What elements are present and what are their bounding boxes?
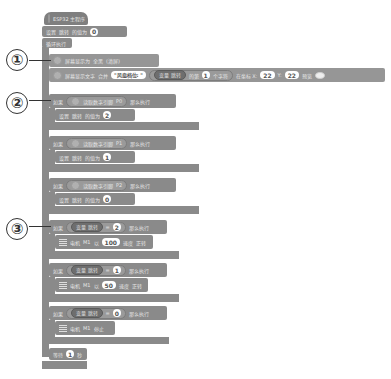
port-dropdown[interactable]: M1	[83, 325, 91, 331]
init-set-block[interactable]: 设置 跳转 的值为 0	[42, 26, 127, 37]
callout-number: ①	[6, 49, 28, 71]
speed-input[interactable]: 100	[102, 238, 121, 246]
then-label: 那么执行	[130, 182, 150, 189]
callout-number: ③	[6, 218, 28, 240]
compare-block[interactable]: 变量 跳转 = 1	[66, 265, 126, 276]
wait-unit: 秒	[77, 351, 82, 358]
if-block[interactable]: 如果 读取数字引脚 P0 那么执行	[49, 94, 176, 108]
nth-label: 的第	[189, 72, 199, 79]
set-block[interactable]: 设置 跳转 的值为 2	[55, 109, 135, 121]
variable-reporter[interactable]: 变量 跳转	[71, 265, 103, 275]
if-foot	[49, 164, 199, 172]
prefix-label: 以	[94, 239, 99, 246]
to-label: 的值为	[85, 112, 100, 119]
coord-y-label: Y:	[278, 72, 282, 78]
speed-label: 速度	[119, 282, 129, 289]
motor-icon	[59, 282, 67, 289]
char-of-block[interactable]: 变量 跳转 的第 1 个字符	[149, 70, 233, 81]
screen-text-label: 屏幕显示文字	[65, 72, 95, 79]
preview-label: 预览	[302, 72, 312, 79]
screen-clear-block[interactable]: 屏幕显示为 全黑 (清屏)	[49, 54, 159, 67]
callout-line	[29, 226, 51, 227]
var-dropdown[interactable]: 跳转	[72, 196, 82, 203]
set-label: 设置	[59, 196, 69, 203]
merge-label: 合并	[98, 72, 108, 79]
hat-block[interactable]: ESP32 主程序	[44, 12, 88, 25]
wait-input[interactable]: 1	[66, 350, 74, 358]
equals-label: =	[106, 310, 110, 316]
then-label: 那么执行	[129, 310, 149, 317]
callout-number: ②	[6, 92, 28, 114]
if-label: 如果	[53, 98, 63, 105]
port-dropdown[interactable]: M1	[83, 239, 91, 245]
set-block[interactable]: 设置 跳转 的值为 1	[55, 151, 135, 163]
value-input[interactable]: 0	[90, 28, 98, 36]
speed-input[interactable]: 50	[102, 281, 116, 289]
read-label: 读取数字引脚	[83, 182, 113, 189]
if-block[interactable]: 如果 变量 跳转 = 2 那么执行	[49, 220, 167, 234]
if-block[interactable]: 如果 读取数字引脚 P2 那么执行	[49, 178, 176, 192]
var-dropdown[interactable]: 跳转	[59, 28, 69, 35]
var-dropdown[interactable]: 跳转	[72, 154, 82, 161]
compare-block[interactable]: 变量 跳转 = 0	[66, 308, 126, 319]
read-pin-block[interactable]: 读取数字引脚 P2	[66, 180, 127, 191]
value-input[interactable]: 1	[103, 153, 111, 161]
prefix-label: 以	[94, 282, 99, 289]
text-input[interactable]: "风扇档位: "	[111, 71, 146, 79]
if-block[interactable]: 如果 变量 跳转 = 0 那么执行	[49, 306, 167, 320]
if-block[interactable]: 如果 变量 跳转 = 1 那么执行	[49, 263, 167, 277]
loop-block[interactable]: 循环执行	[42, 38, 72, 48]
if-label: 如果	[53, 182, 63, 189]
compare-block[interactable]: 变量 跳转 = 2	[66, 222, 126, 233]
to-label: 的值为	[85, 154, 100, 161]
variable-reporter[interactable]: 变量 跳转	[71, 308, 103, 318]
pin-icon	[71, 139, 80, 148]
read-pin-block[interactable]: 读取数字引脚 P1	[66, 138, 127, 149]
set-label: 设置	[59, 112, 69, 119]
eye-icon[interactable]	[315, 72, 325, 79]
callout-line	[29, 100, 51, 101]
value-input[interactable]: 0	[103, 195, 111, 203]
to-label: 的值为	[72, 28, 87, 35]
x-input[interactable]: 22	[260, 71, 274, 79]
screen-option-dropdown[interactable]: 全黑	[93, 57, 103, 64]
variable-reporter[interactable]: 变量 跳转	[154, 70, 186, 80]
set-label: 设置	[46, 28, 56, 35]
motor-run-block[interactable]: 电机 M1 以 50 速度 正转	[55, 278, 148, 292]
compare-value-input[interactable]: 2	[113, 223, 121, 231]
if-foot	[49, 251, 179, 259]
motor-label: 电机	[70, 239, 80, 246]
read-pin-block[interactable]: 读取数字引脚 P0	[66, 96, 127, 107]
motor-run-block[interactable]: 电机 M1 以 100 速度 正转	[55, 235, 153, 249]
if-foot	[49, 122, 199, 130]
speed-label: 速度	[123, 239, 133, 246]
if-foot	[49, 206, 199, 214]
stop-label: 停止	[94, 325, 104, 332]
pin-icon	[71, 97, 80, 106]
motor-stop-block[interactable]: 电机 M1 停止	[55, 321, 115, 335]
compare-value-input[interactable]: 1	[113, 266, 121, 274]
screen-text-block[interactable]: 屏幕显示文字 合并 "风扇档位: " 变量 跳转 的第 1 个字符 在坐标 X:…	[49, 68, 385, 82]
coord-x-label: 在坐标 X:	[236, 72, 258, 79]
callout-line	[29, 60, 51, 61]
then-label: 那么执行	[129, 267, 149, 274]
pin-dropdown[interactable]: P2	[116, 182, 122, 188]
wait-label: 等待	[53, 351, 63, 358]
var-dropdown[interactable]: 跳转	[72, 112, 82, 119]
direction-dropdown[interactable]: 正转	[132, 282, 142, 289]
direction-dropdown[interactable]: 正转	[136, 239, 146, 246]
value-input[interactable]: 2	[103, 111, 111, 119]
compare-value-input[interactable]: 0	[113, 309, 121, 317]
motor-icon	[59, 325, 67, 332]
pin-dropdown[interactable]: P1	[116, 140, 122, 146]
if-block[interactable]: 如果 读取数字引脚 P1 那么执行	[49, 136, 176, 150]
wait-block[interactable]: 等待 1 秒	[49, 348, 87, 360]
port-dropdown[interactable]: M1	[83, 282, 91, 288]
char-label: 个字符	[213, 72, 228, 79]
pin-dropdown[interactable]: P0	[116, 98, 122, 104]
y-input[interactable]: 22	[285, 71, 299, 79]
variable-reporter[interactable]: 变量 跳转	[71, 222, 103, 232]
set-block[interactable]: 设置 跳转 的值为 0	[55, 193, 135, 205]
index-input[interactable]: 1	[202, 71, 210, 79]
if-foot	[49, 294, 179, 302]
